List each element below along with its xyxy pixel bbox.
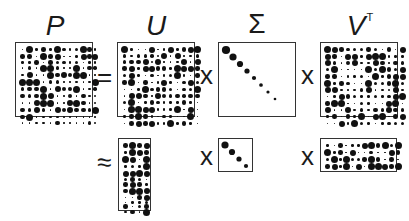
dot-icon [367, 122, 370, 125]
dot-icon [122, 156, 129, 163]
dot-icon [343, 163, 350, 170]
dot-icon [143, 114, 148, 119]
dot-icon [69, 48, 72, 51]
dot-icon [80, 46, 87, 53]
dot-icon [175, 94, 180, 99]
dot-icon [40, 53, 47, 60]
dot-icon [63, 56, 65, 58]
dot-icon [367, 109, 370, 112]
label-u: U [141, 12, 171, 40]
dot-icon [75, 48, 79, 52]
matrix-entry [92, 121, 99, 126]
matrix-entry [365, 66, 372, 73]
dot-icon [361, 69, 363, 71]
matrix-p [15, 42, 93, 117]
dot-icon [366, 54, 372, 60]
matrix-entry [324, 46, 331, 53]
diagonal-dot-icon [266, 90, 269, 93]
dot-icon [157, 55, 160, 58]
dot-icon [387, 74, 392, 79]
matrix-entry [129, 188, 136, 195]
matrix-entry [142, 99, 149, 106]
dot-icon [34, 100, 40, 106]
dot-icon [354, 83, 356, 85]
matrix-entry [324, 80, 331, 87]
dot-icon [75, 55, 78, 58]
dot-icon [183, 116, 185, 118]
dot-icon [333, 61, 337, 65]
dot-icon [376, 157, 381, 162]
matrix-entry [135, 113, 142, 120]
dot-icon [81, 108, 86, 113]
matrix-entry [379, 80, 386, 87]
dot-icon [176, 48, 179, 51]
dot-icon [20, 108, 25, 113]
dot-icon [43, 74, 45, 76]
dot-icon [331, 156, 338, 163]
dot-icon [401, 89, 404, 92]
dot-icon [129, 66, 135, 72]
matrix-entry [324, 93, 331, 100]
matrix-entry [167, 86, 174, 93]
dot-icon [189, 101, 192, 104]
dot-icon [36, 67, 38, 69]
matrix-entry [368, 156, 375, 163]
dot-icon [174, 65, 181, 72]
matrix-entry [167, 72, 174, 79]
dot-icon [19, 79, 26, 86]
matrix-entry [379, 73, 386, 80]
dot-icon [381, 122, 384, 125]
matrix-entry [392, 73, 399, 80]
matrix-entry [167, 113, 174, 120]
dot-icon [381, 95, 384, 98]
dot-icon [63, 81, 65, 83]
dot-icon [50, 122, 52, 124]
dot-icon [392, 80, 399, 87]
matrix-entry [33, 114, 40, 121]
dot-icon [387, 47, 392, 52]
matrix-entry [351, 120, 358, 127]
dot-icon [182, 88, 186, 92]
dot-icon [94, 122, 97, 125]
matrix-entry [73, 79, 80, 86]
matrix-entry [135, 86, 142, 93]
dot-icon [341, 76, 343, 78]
dot-icon [196, 81, 200, 85]
dot-icon [358, 113, 365, 120]
dot-icon [196, 54, 200, 58]
dot-icon [145, 49, 147, 51]
dot-icon [47, 65, 54, 72]
dot-icon [136, 121, 142, 127]
matrix-v-k-transpose [320, 138, 397, 172]
dot-icon [143, 80, 148, 85]
dot-icon [373, 108, 378, 113]
diagonal-dot-icon [236, 156, 241, 161]
matrix-sigma [218, 42, 296, 117]
dot-icon [376, 143, 381, 148]
dot-icon [345, 145, 347, 147]
dot-icon [56, 80, 60, 84]
dot-icon [177, 116, 179, 118]
dot-icon [339, 94, 345, 100]
matrix-entry [187, 86, 194, 93]
times-sign-1: x [200, 62, 213, 88]
matrix-entry [92, 107, 99, 114]
dot-icon [129, 121, 134, 126]
matrix-entry [136, 142, 143, 149]
matrix-entry [379, 93, 386, 100]
matrix-entry [26, 114, 33, 121]
dot-icon [340, 89, 343, 92]
dot-icon [69, 122, 71, 124]
dot-icon [174, 72, 181, 79]
dot-icon [76, 95, 78, 97]
matrix-entry [92, 53, 99, 60]
dot-icon [55, 107, 61, 113]
dot-icon [188, 94, 193, 99]
matrix-entry [40, 100, 47, 107]
matrix-entry [54, 121, 61, 126]
dot-icon [347, 89, 349, 91]
matrix-entry [343, 156, 350, 163]
matrix-entry [372, 120, 379, 127]
matrix-entry [338, 93, 345, 100]
dot-icon [94, 61, 97, 64]
